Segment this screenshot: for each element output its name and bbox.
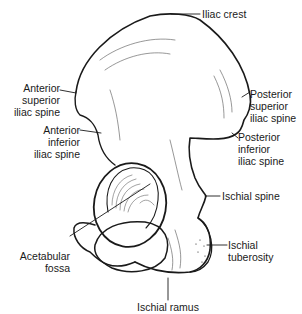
label-posterior-inferior-iliac-spine: Posterior inferior iliac spine (238, 131, 284, 167)
pubis-outline (74, 223, 135, 266)
label-line: Ischial (228, 239, 274, 251)
anterior-border (75, 92, 115, 165)
leader-lines (60, 14, 250, 300)
label-ischial-tuberosity: Ischial tuberosity (228, 239, 274, 263)
lunate-surface (107, 168, 158, 228)
label-line: inferior (24, 136, 80, 148)
label-ischial-spine: Ischial spine (222, 190, 280, 202)
label-line: Anterior (4, 82, 60, 94)
label-line: iliac spine (250, 112, 296, 124)
label-line: Posterior (250, 88, 296, 100)
label-line: iliac spine (238, 155, 284, 167)
label-line: fossa (14, 262, 70, 274)
label-line: Posterior (238, 131, 284, 143)
label-line: tuberosity (228, 251, 274, 263)
label-line: iliac spine (24, 148, 80, 160)
label-line: superior (4, 94, 60, 106)
label-anterior-superior-iliac-spine: Anterior superior iliac spine (4, 82, 60, 118)
label-anterior-inferior-iliac-spine: Anterior inferior iliac spine (24, 124, 80, 160)
acetabulum-hatching (112, 175, 154, 212)
label-line: inferior (238, 143, 284, 155)
label-line: Acetabular (14, 250, 70, 262)
label-ischial-ramus: Ischial ramus (128, 301, 208, 313)
label-line: Anterior (24, 124, 80, 136)
label-acetabular-fossa: Acetabular fossa (14, 250, 70, 274)
tuberosity-stipple (195, 239, 205, 262)
label-line: superior (250, 100, 296, 112)
label-iliac-crest: Iliac crest (202, 8, 246, 20)
label-posterior-superior-iliac-spine: Posterior superior iliac spine (250, 88, 296, 124)
acetabulum-rim (87, 157, 172, 252)
label-line: iliac spine (4, 106, 60, 118)
